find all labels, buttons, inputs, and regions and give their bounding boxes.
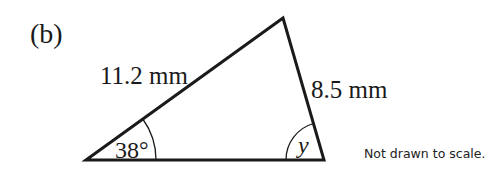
angle-label-right: y [296,132,309,158]
part-label: (b) [30,18,63,49]
side-label-top-right: 8.5 mm [311,76,388,103]
diagram-svg: (b) 11.2 mm 8.5 mm 38° y Not drawn to sc… [0,0,502,171]
angle-label-left: 38° [115,137,149,163]
side-label-left-top: 11.2 mm [100,62,189,89]
triangle-diagram: (b) 11.2 mm 8.5 mm 38° y Not drawn to sc… [0,0,502,171]
not-to-scale-note: Not drawn to scale. [364,146,485,161]
